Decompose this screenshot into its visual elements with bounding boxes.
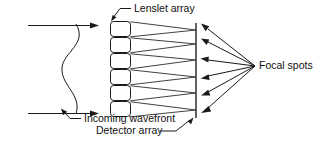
lenslet-cell-2 [111,38,131,53]
lenslet-array-leader-line [113,9,131,19]
detector-array-label: Detector array [96,124,163,136]
lenslet-array-group [111,22,131,117]
focal-spot-leader-line-5 [208,66,255,92]
lenslet-cell-4 [111,70,131,85]
incoming-wavefront-leader-line [64,112,81,119]
ray-3-lower [131,60,197,69]
focal-spot-arrow-3 [201,56,209,62]
ray-1-upper [131,22,197,30]
lenslet-cell-5 [111,86,131,101]
focal-spot-leader-6 [201,66,255,113]
ray-5-lower [131,93,197,101]
ray-bundle-4 [131,70,197,85]
ray-6-upper [131,102,197,110]
focal-spot-arrow-4 [201,74,210,80]
wavefront-sensor-diagram: Lenslet array Focal spots Incoming wavef… [0,0,333,146]
lenslet-cell-3 [111,54,131,69]
ray-5-upper [131,86,197,93]
ray-1-lower [131,30,197,37]
ray-bundle-2 [131,38,197,53]
detector-array-leader-arrow [188,118,194,125]
ray-4-lower [131,77,197,85]
ray-bundle-1 [131,22,197,37]
focal-spot-arrow-5 [201,90,210,96]
ray-2-lower [131,44,197,53]
ray-bundles-group [131,22,197,117]
lenslet-array-leader [111,9,131,22]
incoming-wavefront-label: Incoming wavefront [84,112,175,124]
focal-spot-leader-line-4 [208,66,255,76]
focal-spot-leader-line-6 [208,66,255,108]
focal-spot-leader-line-2 [208,42,255,66]
focal-spot-leader-5 [201,66,255,96]
ray-3-upper [131,54,197,60]
ray-bundle-5 [131,86,197,101]
focal-spots-label: Focal spots [259,59,313,71]
focal-spots-leaders [201,24,256,114]
incoming-wavefront-group [28,22,99,116]
focal-spot-leader-3 [201,56,256,66]
wavefront-top-arrow [28,22,99,28]
focal-spot-leader-1 [201,24,255,67]
lenslet-array-label: Lenslet array [134,2,195,14]
focal-spot-leader-2 [201,39,255,67]
ray-4-upper [131,70,197,77]
wavefront-top-arrow-head [90,22,99,28]
ray-bundle-3 [131,54,197,69]
wavefront-curve [62,24,79,114]
diagram-canvas: Lenslet array Focal spots Incoming wavef… [0,0,333,146]
focal-spot-arrow-2 [201,39,209,46]
lenslet-cell-1 [111,22,131,37]
lenslet-array-leader-arrow [111,15,116,21]
focal-spot-arrow-1 [201,24,209,32]
ray-2-upper [131,38,197,44]
